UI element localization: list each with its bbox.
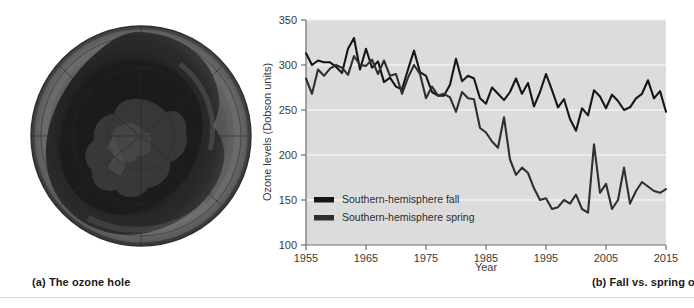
- legend-label-fall: Southern-hemisphere fall: [342, 193, 459, 205]
- ozone-hole-satellite-image: [30, 8, 252, 266]
- x-tick-label: 2015: [654, 252, 678, 264]
- y-axis-ticks: 100150200250300350: [279, 14, 306, 251]
- y-tick-label: 100: [279, 239, 297, 251]
- legend-swatch-spring: [314, 215, 334, 221]
- panel-a-ozone-hole: (a) The ozone hole: [0, 0, 258, 308]
- y-tick-label: 250: [279, 104, 297, 116]
- x-tick-label: 1975: [414, 252, 438, 264]
- y-tick-label: 150: [279, 194, 297, 206]
- x-tick-label: 1965: [354, 252, 378, 264]
- legend-label-spring: Southern-hemisphere spring: [342, 211, 475, 223]
- caption-panel-b: (b) Fall vs. spring ozone levels at Hall…: [592, 276, 694, 288]
- x-tick-label: 1995: [534, 252, 558, 264]
- y-tick-label: 200: [279, 149, 297, 161]
- caption-panel-a: (a) The ozone hole: [32, 276, 130, 288]
- y-tick-label: 350: [279, 14, 297, 26]
- bottom-divider: [0, 297, 694, 298]
- x-tick-label: 1955: [294, 252, 318, 264]
- panel-b-ozone-chart: 100150200250300350 195519651975198519952…: [258, 0, 694, 308]
- ozone-line-chart: 100150200250300350 195519651975198519952…: [258, 0, 694, 275]
- legend-swatch-fall: [314, 197, 334, 203]
- y-axis-label: Ozone levels (Dobson units): [261, 63, 273, 201]
- ozone-figure: (a) The ozone hole 100150200250300350 19…: [0, 0, 694, 308]
- x-axis-label: Year: [475, 261, 498, 273]
- y-tick-label: 300: [279, 59, 297, 71]
- x-tick-label: 2005: [594, 252, 618, 264]
- ozone-hole-image-container: [30, 8, 252, 266]
